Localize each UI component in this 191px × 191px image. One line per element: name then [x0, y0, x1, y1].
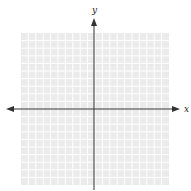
y-axis-label: y — [91, 5, 98, 15]
x-axis-left-arrow-icon — [6, 106, 14, 112]
x-axis-label: x — [184, 104, 189, 114]
coordinate-plane: x y — [0, 0, 191, 191]
x-axis-right-arrow-icon — [172, 106, 180, 112]
y-axis-top-arrow-icon — [91, 18, 97, 26]
